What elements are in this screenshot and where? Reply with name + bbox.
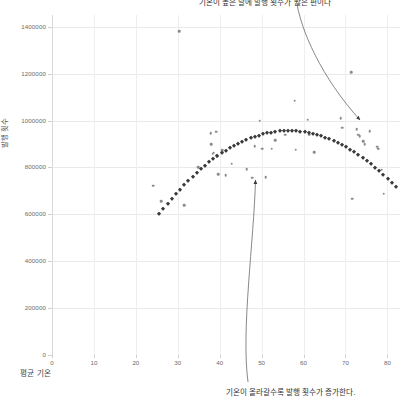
- x-tick-label: 40: [216, 360, 223, 366]
- scatter-point: [350, 71, 353, 74]
- gridline-horizontal: [52, 167, 400, 168]
- x-tick-mark: [304, 355, 305, 358]
- gridline-vertical: [178, 15, 179, 355]
- trend-marker: [186, 179, 191, 184]
- gridline-vertical: [262, 15, 263, 355]
- y-tick-label: 600000: [0, 211, 46, 217]
- scatter-point: [270, 147, 273, 150]
- scatter-point: [258, 119, 261, 122]
- y-tick-label: 1000000: [0, 118, 46, 124]
- scatter-point: [245, 168, 248, 171]
- scatter-point: [265, 176, 268, 179]
- gridline-vertical: [304, 15, 305, 355]
- gridline-horizontal: [52, 74, 400, 75]
- y-tick-label: 400000: [0, 258, 46, 264]
- gridline-vertical: [136, 15, 137, 355]
- x-tick-mark: [178, 355, 179, 358]
- scatter-point: [351, 198, 354, 201]
- x-tick-mark: [136, 355, 137, 358]
- trend-marker: [389, 181, 394, 186]
- scatter-point: [382, 192, 385, 195]
- x-tick-mark: [262, 355, 263, 358]
- gridline-horizontal: [52, 214, 400, 215]
- x-tick-label: 80: [384, 360, 391, 366]
- scatter-point: [183, 204, 186, 207]
- scatter-point: [210, 143, 213, 146]
- trend-marker: [178, 187, 183, 192]
- scatter-point: [356, 128, 359, 131]
- x-tick-mark: [94, 355, 95, 358]
- chart-canvas: 발행 횟수 0200000400000600000800000100000012…: [0, 0, 407, 403]
- trend-marker: [244, 138, 249, 143]
- trend-marker: [381, 173, 386, 178]
- scatter-point: [313, 151, 316, 154]
- y-tick-label: 800000: [0, 164, 46, 170]
- x-tick-mark: [345, 355, 346, 358]
- scatter-point: [293, 99, 296, 102]
- scatter-point: [231, 162, 234, 165]
- x-tick-label: 50: [258, 360, 265, 366]
- scatter-point: [215, 130, 218, 133]
- gridline-vertical: [94, 15, 95, 355]
- scatter-point: [284, 133, 287, 136]
- trend-marker: [385, 177, 390, 182]
- y-tick-label: 1400000: [0, 24, 46, 30]
- scatter-point: [369, 130, 372, 133]
- scatter-point: [358, 135, 361, 138]
- x-tick-label: 10: [90, 360, 97, 366]
- trend-marker: [198, 167, 203, 172]
- scatter-point: [224, 174, 227, 177]
- scatter-point: [160, 200, 163, 203]
- y-tick-label: 0: [0, 352, 46, 358]
- x-tick-label: 60: [300, 360, 307, 366]
- scatter-point: [217, 173, 220, 176]
- trend-marker: [211, 157, 216, 162]
- x-tick-mark: [220, 355, 221, 358]
- scatter-point: [306, 119, 309, 122]
- gridline-horizontal: [52, 261, 400, 262]
- x-tick-label: 70: [342, 360, 349, 366]
- gridline-horizontal: [52, 308, 400, 309]
- scatter-point: [274, 139, 277, 142]
- gridline-horizontal: [52, 121, 400, 122]
- bottom-annotation-text: 기온이 올라갈수록 발행 횟수가 증가한다.: [226, 386, 356, 397]
- x-tick-mark: [52, 355, 53, 358]
- scatter-point: [341, 126, 344, 129]
- x-tick-mark: [387, 355, 388, 358]
- trend-marker: [190, 174, 195, 179]
- scatter-point: [363, 143, 366, 146]
- trend-marker: [161, 206, 166, 211]
- scatter-point: [251, 176, 254, 179]
- trend-marker: [165, 201, 170, 206]
- trend-marker: [182, 183, 187, 188]
- gridline-vertical: [220, 15, 221, 355]
- scatter-point: [340, 117, 343, 120]
- scatter-point: [213, 152, 216, 155]
- scatter-point: [362, 140, 365, 143]
- scatter-point: [377, 147, 380, 150]
- x-tick-label: 20: [132, 360, 139, 366]
- x-axis-label: 평균 기온: [0, 367, 407, 378]
- y-tick-label: 200000: [0, 305, 46, 311]
- scatter-point: [152, 184, 155, 187]
- x-tick-label: 30: [174, 360, 181, 366]
- scatter-point: [261, 147, 264, 150]
- plot-area: [52, 15, 400, 355]
- scatter-point: [178, 30, 181, 33]
- y-tick-label: 1200000: [0, 71, 46, 77]
- x-axis-label-text: 평균 기온: [20, 369, 50, 378]
- trend-marker: [169, 196, 174, 201]
- x-tick-label: 0: [50, 360, 53, 366]
- scatter-point: [294, 148, 297, 151]
- gridline-vertical: [387, 15, 388, 355]
- gridline-vertical: [345, 15, 346, 355]
- scatter-point: [253, 145, 256, 148]
- trend-marker: [194, 171, 199, 176]
- trend-marker: [207, 160, 212, 165]
- gridline-horizontal: [52, 27, 400, 28]
- trend-marker: [369, 162, 374, 167]
- top-annotation-text: 기온이 높은 달에 발행 횟수가 많은 편이다: [199, 0, 331, 7]
- scatter-point: [210, 132, 213, 135]
- trend-marker: [393, 185, 398, 190]
